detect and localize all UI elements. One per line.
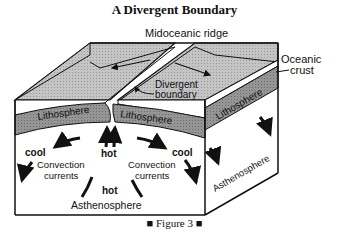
boundary-label: boundary (155, 89, 197, 100)
asthenosphere-front-label: Asthenosphere (71, 199, 142, 211)
divergent-boundary-diagram: Midoceanic ridge Oceanic crust Divergent… (0, 0, 349, 241)
hot-bottom-label: hot (102, 185, 118, 196)
asthenosphere-side-label: Asthenosphere (211, 152, 272, 193)
convection-right-line2: currents (135, 170, 170, 181)
figure-caption: ■ Figure 3 ■ (0, 217, 349, 229)
convection-left-line1: Convection (37, 159, 85, 170)
convection-right-line1: Convection (128, 159, 176, 170)
convection-left-line2: currents (44, 170, 79, 181)
ridge-label: Midoceanic ridge (145, 27, 228, 39)
hot-top-label: hot (101, 148, 117, 159)
cool-left-label: cool (25, 147, 46, 158)
crust-label: crust (290, 64, 314, 76)
convection-arrows (22, 117, 270, 197)
cool-right-label: cool (172, 147, 193, 158)
